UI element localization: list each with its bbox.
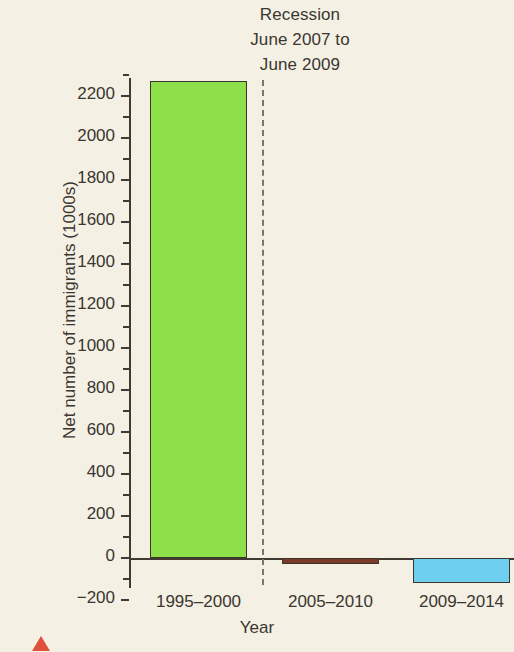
bar-2005–2010 [282,558,379,564]
y-tick-label: 600 [87,420,115,440]
x-tick-label-0: 1995–2000 [129,592,269,612]
y-minor-tick-1900 [123,158,129,160]
y-minor-tick-1700 [123,200,129,202]
y-minor-tick-2300 [123,74,129,76]
y-minor-tick-1300 [123,284,129,286]
y-tick-label: 0 [106,546,115,566]
annotation-line-2: June 2007 to [190,27,410,52]
y-tick-label: 1600 [77,210,115,230]
bar-2009–2014 [413,558,510,583]
y-tick-200 [121,515,129,517]
y-minor-tick--100 [123,578,129,580]
y-tick-2200 [121,95,129,97]
y-minor-tick-900 [123,368,129,370]
y-minor-tick-500 [123,452,129,454]
y-tick-label: −200 [77,588,115,608]
y-tick-1600 [121,221,129,223]
chart-figure: Recession June 2007 to June 2009 Net num… [0,0,514,652]
y-tick-label: 2200 [77,84,115,104]
bar-1995–2000 [150,81,247,558]
recession-divider-line [262,80,264,585]
y-minor-tick-1100 [123,326,129,328]
y-tick-label: 800 [87,378,115,398]
y-tick-label: 1000 [77,336,115,356]
y-tick-600 [121,431,129,433]
annotation-line-1: Recession [190,2,410,27]
y-minor-tick-1500 [123,242,129,244]
recession-annotation: Recession June 2007 to June 2009 [190,2,410,77]
y-minor-tick-700 [123,410,129,412]
y-tick-400 [121,473,129,475]
page-marker-triangle-icon [32,636,50,651]
y-tick-label: 1400 [77,252,115,272]
y-tick-0 [121,557,129,559]
y-axis-line [129,78,131,588]
annotation-line-3: June 2009 [190,52,410,77]
y-minor-tick-100 [123,536,129,538]
x-tick-label-1: 2005–2010 [261,592,401,612]
y-tick-label: 400 [87,462,115,482]
x-tick-label-2: 2009–2014 [392,592,514,612]
y-tick-1400 [121,263,129,265]
y-tick-800 [121,389,129,391]
y-tick-label: 2000 [77,126,115,146]
plot-area: 2200200018001600140012001000800600400200… [129,78,514,588]
y-minor-tick-2100 [123,116,129,118]
y-tick-1000 [121,347,129,349]
y-tick-label: 1800 [77,168,115,188]
x-axis-title: Year [0,618,514,638]
y-tick-1800 [121,179,129,181]
y-tick-label: 200 [87,504,115,524]
y-tick-2000 [121,137,129,139]
y-tick-label: 1200 [77,294,115,314]
y-minor-tick-300 [123,494,129,496]
y-tick-1200 [121,305,129,307]
